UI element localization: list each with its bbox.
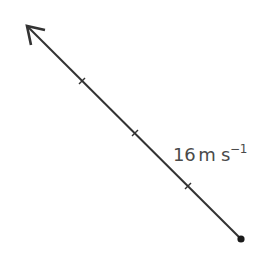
velocity-label: 16m s−1 [173,143,247,165]
start-point-dot [237,235,244,242]
vector-diagram [0,0,273,253]
velocity-magnitude: 16 [173,144,195,165]
velocity-unit: m s [198,144,230,165]
velocity-unit-exponent: −1 [230,142,247,156]
vector-line [27,26,241,239]
